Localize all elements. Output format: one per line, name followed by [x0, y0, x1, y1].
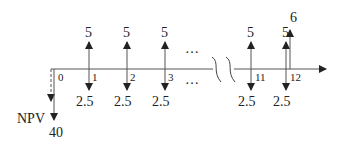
inflow-label: 5 [282, 25, 289, 40]
inflow-label: 5 [123, 25, 130, 40]
axis-break-mark [212, 57, 221, 82]
period-label-0: 0 [58, 71, 64, 83]
period-label: 12 [290, 71, 301, 83]
inflow-label: 5 [247, 25, 254, 40]
inflow-label: 5 [161, 25, 168, 40]
period-label: 11 [255, 71, 266, 83]
extra-inflow-label: 6 [290, 10, 297, 25]
outflow-label: 2.5 [114, 94, 132, 109]
ellipsis-bottom: … [185, 72, 199, 87]
outflow-label: 2.5 [76, 94, 94, 109]
axis-break-mark [226, 57, 235, 82]
ellipsis-top: … [185, 41, 199, 56]
period-label: 2 [130, 71, 136, 83]
period-label: 3 [168, 71, 174, 83]
npv-label: NPV [17, 111, 45, 126]
period-label: 1 [92, 71, 98, 83]
outflow-label: 2.5 [238, 94, 256, 109]
outflow-label: 2.5 [152, 94, 170, 109]
initial-outflow-label: 40 [49, 125, 63, 140]
cash-flow-diagram: 0 NPV 40 52.5152.5252.5352.51152.5126 … … [0, 0, 343, 145]
outflow-label: 2.5 [273, 94, 291, 109]
diagram-canvas: 0 NPV 40 52.5152.5252.5352.51152.5126 … … [0, 0, 343, 145]
inflow-label: 5 [85, 25, 92, 40]
